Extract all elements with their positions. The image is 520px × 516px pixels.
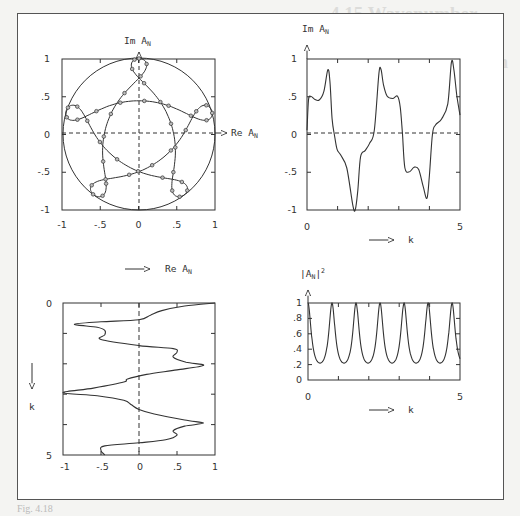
curve-marker — [133, 58, 137, 62]
curve-marker — [169, 122, 173, 126]
curve-marker — [205, 118, 209, 122]
argand-ylabel: Im AN — [124, 35, 151, 48]
curve-marker — [180, 180, 184, 184]
curve-marker — [142, 81, 146, 85]
tick-label: 0 — [291, 129, 297, 140]
curve-marker — [194, 109, 198, 113]
argand-rosette-curve — [66, 59, 212, 197]
curve-marker — [169, 149, 173, 153]
curve-marker — [189, 114, 193, 118]
curve-marker — [65, 115, 69, 119]
tick-label: 1 — [296, 297, 302, 308]
curve-marker — [159, 100, 163, 104]
tick-label: 5 — [457, 391, 463, 402]
curve-marker — [210, 111, 214, 115]
curve-marker — [102, 135, 106, 139]
re-vs-k-panel: Re AN k -1-.50.5105 — [29, 263, 218, 472]
curve-marker — [150, 163, 154, 167]
curve-marker — [130, 67, 134, 71]
curve-marker — [109, 112, 113, 116]
im-vs-k-tick-labels: 051.50-.5-1 — [285, 53, 464, 232]
curve-marker — [142, 99, 146, 103]
im-vs-k-xlabel: k — [408, 234, 414, 245]
tick-label: .2 — [293, 359, 302, 370]
curve-marker — [145, 62, 149, 66]
curve-marker — [161, 176, 165, 180]
curve-marker — [90, 183, 94, 187]
tick-label: .6 — [293, 328, 302, 339]
tick-label: 0 — [304, 221, 310, 232]
tick-label: .5 — [41, 91, 50, 102]
tick-label: 0 — [46, 298, 52, 309]
figure-plots: Im AN Re AN -1-.50.511.50-.5-1 Im AN k 0… — [0, 0, 520, 516]
im-vs-k-curve — [307, 60, 460, 211]
curve-marker — [174, 146, 178, 150]
curve-marker — [172, 170, 176, 174]
curve-marker — [167, 104, 171, 108]
curve-marker — [85, 119, 89, 123]
curve-marker — [184, 128, 188, 132]
tick-label: 5 — [457, 221, 463, 232]
curve-marker — [185, 189, 189, 193]
curve-marker — [104, 182, 108, 186]
tick-label: .4 — [293, 343, 302, 354]
tick-label: 5 — [46, 450, 52, 461]
re-vs-k-tick-labels: -1-.50.5105 — [46, 298, 218, 472]
tick-label: 1 — [44, 53, 50, 64]
re-vs-k-xlabel: Re AN — [165, 263, 192, 276]
tick-label: 0 — [44, 129, 50, 140]
curve-marker — [95, 109, 99, 113]
tick-label: -1 — [57, 219, 66, 230]
tick-label: .5 — [173, 461, 182, 472]
figure-caption: Fig. 4.18 — [17, 503, 53, 514]
curve-marker — [123, 91, 127, 95]
tick-label: 1 — [212, 219, 218, 230]
argand-tick-labels: -1-.50.511.50-.5-1 — [38, 53, 219, 230]
argand-xlabel: Re AN — [231, 127, 258, 140]
curve-marker — [76, 118, 80, 122]
curve-marker — [139, 75, 143, 79]
tick-label: .5 — [288, 91, 297, 102]
im-vs-k-panel: Im AN k 051.50-.5-1 — [285, 23, 464, 245]
curve-marker — [91, 193, 95, 197]
tick-label: -.5 — [285, 166, 298, 177]
argand-diagram-panel: Im AN Re AN -1-.50.511.50-.5-1 — [38, 35, 258, 230]
abs2-vs-k-ylabel: |AN|2 — [300, 267, 325, 281]
curve-marker — [101, 160, 105, 164]
curve-marker — [115, 158, 119, 162]
curve-marker — [170, 189, 174, 193]
tick-label: -1 — [288, 204, 297, 215]
abs2-vs-k-panel: |AN|2 k 051.8.6.4.20 — [293, 267, 463, 415]
tick-label: 0 — [135, 219, 141, 230]
curve-marker — [101, 194, 105, 198]
tick-label: .8 — [293, 312, 302, 323]
tick-label: -.5 — [94, 219, 107, 230]
tick-label: -1 — [41, 204, 50, 215]
tick-label: 1 — [212, 461, 218, 472]
tick-label: 0 — [137, 461, 143, 472]
tick-label: -1 — [60, 461, 69, 472]
tick-label: -.5 — [38, 166, 51, 177]
tick-label: 0 — [305, 391, 311, 402]
curve-marker — [137, 57, 141, 61]
tick-label: 1 — [291, 53, 297, 64]
curve-marker — [104, 177, 108, 181]
curve-marker — [205, 103, 209, 107]
abs2-vs-k-xlabel: k — [408, 404, 414, 415]
curve-marker — [136, 169, 140, 173]
tick-label: -.5 — [96, 461, 109, 472]
curve-marker — [75, 105, 79, 109]
re-vs-k-klabel: k — [29, 401, 35, 412]
abs2-vs-k-curve — [308, 303, 460, 363]
curve-marker — [178, 195, 182, 199]
curve-marker — [127, 173, 131, 177]
tick-label: 0 — [296, 374, 302, 385]
curve-marker — [66, 106, 70, 110]
curve-marker — [98, 140, 102, 144]
tick-label: .5 — [172, 219, 181, 230]
im-vs-k-ylabel: Im AN — [302, 23, 329, 36]
curve-marker — [118, 101, 122, 105]
